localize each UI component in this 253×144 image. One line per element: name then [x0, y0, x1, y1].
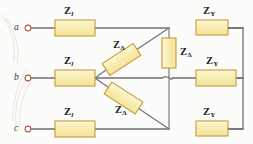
z-wye-c-box: [196, 121, 228, 136]
z-wye-c-symbol: Z: [203, 106, 210, 117]
z-wye-a-subscript: Y: [210, 10, 215, 18]
z-wye-c-subscript: Y: [210, 111, 215, 119]
z-wye-b-label: ZY: [206, 56, 218, 68]
z-delta-lower-symbol: Z: [115, 104, 122, 115]
circuit-schematic-canvas: [0, 0, 253, 144]
z-wye-c-label: ZY: [203, 107, 215, 119]
z-line-b-symbol: Z: [64, 55, 71, 66]
z-line-c-label: Zl: [64, 107, 73, 119]
z-delta-upper-subscript: Δ: [120, 44, 125, 52]
z-delta-lower-subscript: Δ: [122, 109, 127, 117]
z-line-a-box: [55, 20, 95, 36]
z-delta-right-label: ZΔ: [180, 47, 192, 59]
terminal-a-label: a: [14, 22, 19, 32]
z-line-b-subscript: l: [71, 60, 73, 68]
circuit-diagram: a b c Zl Zl Zl ZY ZY ZY ZΔ ZΔ ZΔ: [0, 0, 253, 144]
z-wye-a-symbol: Z: [203, 5, 210, 16]
terminal-b-label: b: [14, 72, 19, 82]
z-line-a-symbol: Z: [64, 5, 71, 16]
z-wye-a-box: [196, 20, 228, 35]
z-line-c-symbol: Z: [64, 106, 71, 117]
terminal-c-label: c: [14, 123, 18, 133]
wire-hop-jumper: [162, 77, 173, 79]
z-delta-right-symbol: Z: [180, 46, 187, 57]
z-wye-b-subscript: Y: [213, 60, 218, 68]
z-wye-a-label: ZY: [203, 6, 215, 18]
terminal-rings: [25, 25, 31, 132]
z-line-a-subscript: l: [71, 10, 73, 18]
z-delta-right-subscript: Δ: [187, 51, 192, 59]
z-line-b-label: Zl: [64, 56, 73, 68]
z-line-a-label: Zl: [64, 6, 73, 18]
z-line-c-subscript: l: [71, 111, 73, 119]
z-wye-b-box: [196, 70, 236, 86]
z-delta-lower-label: ZΔ: [115, 105, 127, 117]
wye-neutral-bus: [236, 28, 243, 129]
z-line-b-box: [55, 70, 95, 86]
z-delta-upper-label: ZΔ: [113, 40, 125, 52]
z-delta-upper-symbol: Z: [113, 39, 120, 50]
z-delta-right-box: [162, 38, 176, 68]
z-wye-b-symbol: Z: [206, 55, 213, 66]
z-line-c-box: [55, 121, 95, 137]
